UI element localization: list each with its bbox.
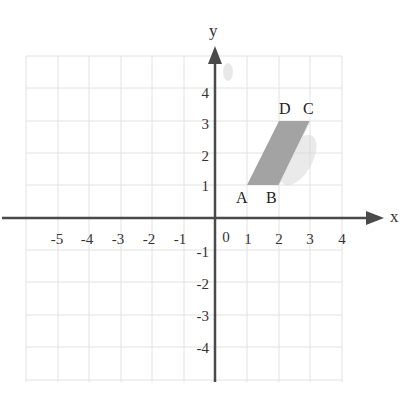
x-tick: -1 — [174, 231, 187, 247]
vertex-label-b: B — [266, 189, 277, 206]
y-arrow-icon — [208, 46, 222, 64]
x-tick: -5 — [51, 231, 64, 247]
y-tick: -1 — [197, 244, 210, 260]
x-axis-label: x — [390, 207, 399, 226]
y-tick: 3 — [202, 116, 210, 132]
y-tick-labels: 4 3 2 1 -1 -2 -3 -4 — [197, 85, 210, 356]
y-tick: 1 — [202, 178, 210, 194]
vertex-label-c: C — [303, 100, 314, 117]
origin-label: 0 — [222, 229, 230, 245]
vertex-label-d: D — [279, 100, 291, 117]
x-axis — [2, 211, 384, 225]
vertex-label-a: A — [236, 189, 248, 206]
y-tick: 4 — [202, 85, 210, 101]
y-tick: -2 — [197, 276, 210, 292]
y-tick: -4 — [197, 340, 210, 356]
x-tick: 3 — [306, 231, 314, 247]
x-tick: 1 — [244, 231, 252, 247]
x-tick: -2 — [143, 231, 156, 247]
y-axis — [208, 46, 222, 382]
coordinate-plane: x y -5 -4 -3 -2 -1 0 1 2 3 4 4 3 2 1 -1 … — [0, 0, 406, 406]
x-arrow-icon — [366, 211, 384, 225]
y-tick: -3 — [197, 308, 210, 324]
x-tick: 2 — [275, 231, 283, 247]
x-tick: 4 — [338, 231, 346, 247]
x-tick: -3 — [112, 231, 125, 247]
smudge — [223, 63, 233, 81]
y-axis-label: y — [209, 21, 218, 40]
y-tick: 2 — [202, 148, 210, 164]
x-tick: -4 — [81, 231, 94, 247]
